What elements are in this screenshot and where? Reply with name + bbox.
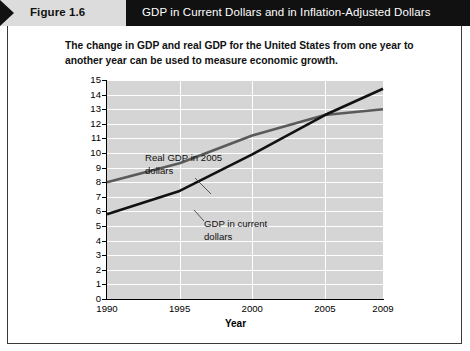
data-lines bbox=[8, 26, 463, 344]
figure-number-label: Figure 1.6 bbox=[30, 6, 85, 18]
figure-body: The change in GDP and real GDP for the U… bbox=[7, 26, 462, 344]
chart-area: 0123456789101112131415 19901995200020052… bbox=[8, 26, 463, 344]
annotation-current-gdp: GDP in currentdollars bbox=[204, 218, 267, 243]
annotation-leader-line bbox=[194, 210, 204, 221]
figure-container: Figure 1.6 GDP in Current Dollars and in… bbox=[0, 0, 470, 351]
figure-title: GDP in Current Dollars and in Inflation-… bbox=[142, 6, 431, 18]
figure-header-bar: Figure 1.6 GDP in Current Dollars and in… bbox=[0, 0, 470, 26]
annotation-real-gdp: Real GDP in 2005dollars bbox=[145, 152, 222, 177]
